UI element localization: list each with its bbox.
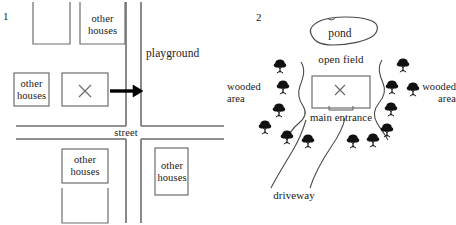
tree-icon — [397, 59, 410, 73]
house-block-center-x — [62, 73, 108, 106]
tree-icon — [367, 134, 380, 148]
tree-icon — [259, 121, 272, 135]
driveway-edge-right — [310, 118, 345, 188]
tree-icon — [381, 124, 394, 138]
label-playground: playground — [146, 48, 226, 60]
label-house-block-bottom-mid: other houses — [62, 154, 108, 177]
wooded-boundary-left — [287, 62, 305, 140]
tree-icon — [274, 60, 287, 74]
tree-icon — [302, 135, 315, 149]
tree-icon — [347, 135, 360, 149]
panel-1-street-map: 1 — [0, 0, 227, 225]
label-driveway: driveway — [261, 190, 327, 202]
tree-icon — [277, 81, 290, 95]
driveway-edge-left — [271, 120, 306, 188]
house-outline — [312, 76, 370, 108]
label-pond: pond — [319, 28, 361, 40]
tree-icon — [273, 104, 286, 118]
label-wooded-area-left: wooded area — [227, 81, 275, 104]
label-wooded-area-right: wooded area — [410, 81, 456, 104]
label-house-block-left-mid: other houses — [14, 78, 49, 101]
tree-icon — [386, 81, 399, 95]
label-street: street — [103, 127, 149, 139]
tree-icon — [281, 131, 294, 145]
house-block-bottom-lower — [62, 188, 108, 223]
house-block-top-left — [33, 2, 70, 44]
label-house-block-top-mid: other houses — [80, 13, 125, 36]
label-main-entrance: main entrance — [302, 112, 380, 124]
label-open-field: open field — [309, 54, 373, 66]
label-house-block-bottom-right: other houses — [153, 160, 191, 183]
tree-icon — [385, 103, 398, 117]
panel-2-property-map: 2 — [227, 0, 454, 225]
